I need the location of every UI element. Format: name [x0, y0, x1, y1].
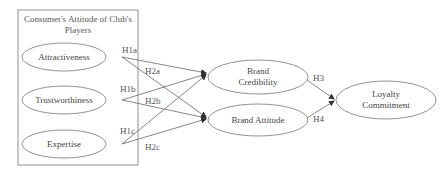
- node-loyalty-commitment: Loyalty Commitment: [336, 81, 436, 119]
- hyp-h2b: H2b: [145, 96, 161, 106]
- hyp-h1b: H1b: [120, 84, 136, 94]
- node-brand-credibility-label-2: Credibility: [239, 77, 278, 87]
- node-trustworthiness-label: Trustworthiness: [35, 95, 93, 105]
- node-trustworthiness: Trustworthiness: [22, 86, 106, 114]
- node-brand-attitude-label: Brand Attitude: [231, 115, 284, 125]
- hyp-h1a: H1a: [122, 45, 137, 55]
- node-attractiveness-label: Attractiveness: [38, 52, 90, 62]
- node-loyalty-label-1: Loyalty: [372, 89, 400, 99]
- node-expertise-label: Expertise: [47, 139, 81, 149]
- hyp-h3: H3: [313, 73, 324, 83]
- node-brand-credibility-label-1: Brand: [247, 66, 269, 76]
- node-brand-attitude: Brand Attitude: [208, 104, 308, 136]
- node-attractiveness: Attractiveness: [22, 43, 106, 71]
- node-loyalty-label-2: Commitment: [362, 100, 410, 110]
- hyp-h1c: H1c: [120, 126, 135, 136]
- group-title-line2: Players: [65, 25, 92, 35]
- node-expertise: Expertise: [22, 130, 106, 158]
- hyp-h2c: H2c: [145, 142, 160, 152]
- hyp-h4: H4: [313, 114, 324, 124]
- hyp-h2a: H2a: [145, 66, 160, 76]
- edge-attractiveness-credibility: [122, 57, 206, 73]
- group-title-line1: Consumer's Attitude of Club's: [24, 14, 132, 24]
- research-model-diagram: Consumer's Attitude of Club's Players At…: [0, 0, 444, 174]
- node-brand-credibility: Brand Credibility: [208, 60, 308, 94]
